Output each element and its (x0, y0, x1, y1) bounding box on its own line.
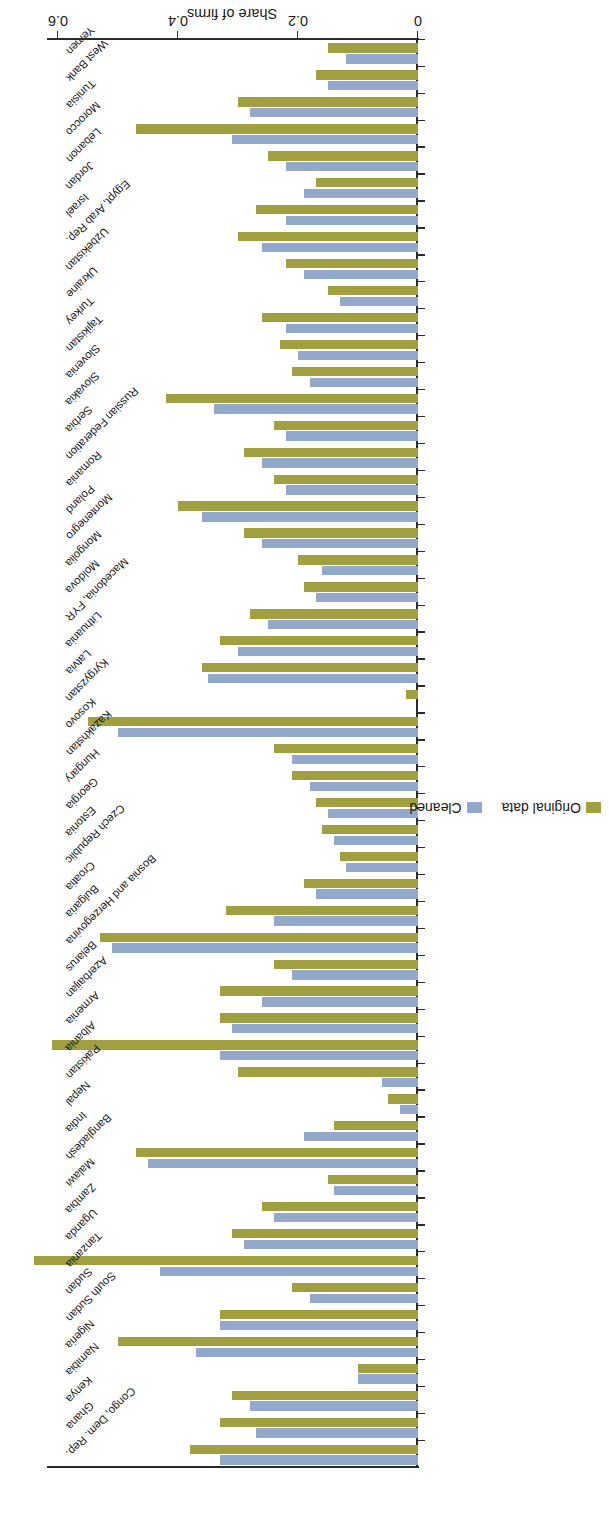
bar-original (406, 690, 418, 699)
bar-cleaned (250, 108, 418, 117)
category-tick (418, 578, 425, 579)
bar-cleaned (304, 270, 418, 279)
bar-cleaned (274, 1213, 418, 1222)
bar-original (388, 1094, 418, 1103)
bar-cleaned (298, 351, 418, 360)
bar-original (220, 1310, 418, 1319)
bar-cleaned (346, 863, 418, 872)
legend-item-cleaned: Cleaned (409, 800, 481, 816)
bar-cleaned (382, 1078, 418, 1087)
bar-original (304, 582, 418, 591)
category-tick (418, 1413, 425, 1414)
bar-cleaned (310, 378, 418, 387)
category-tick (418, 847, 425, 848)
bar-cleaned (334, 1186, 418, 1195)
bar-original (322, 825, 418, 834)
bar-cleaned (196, 1348, 418, 1357)
category-tick (418, 1386, 425, 1387)
bar-original (232, 1229, 418, 1238)
bar-original (274, 475, 418, 484)
category-tick (418, 739, 425, 740)
bar-original (166, 394, 418, 403)
value-axis-tick (57, 31, 58, 40)
bar-original (274, 960, 418, 969)
bar-original (220, 1418, 418, 1427)
bar-original (226, 906, 418, 915)
category-tick (418, 793, 425, 794)
bar-cleaned (232, 1024, 418, 1033)
bar-original (250, 609, 418, 618)
bar-original (328, 1175, 418, 1184)
bar-original (238, 97, 418, 106)
bar-cleaned (322, 566, 418, 575)
bar-cleaned (286, 324, 418, 333)
category-tick (418, 146, 425, 147)
bar-cleaned (208, 674, 418, 683)
bar-original (220, 986, 418, 995)
bar-original (262, 313, 418, 322)
bar-original (52, 1040, 418, 1049)
bar-cleaned (310, 1294, 418, 1303)
bar-original (292, 1283, 418, 1292)
bar-original (136, 124, 418, 133)
bar-chart-figure: Congo, Dem. Rep.GhanaKenyaNamibiaNigeria… (0, 0, 609, 1528)
legend-item-original: Original data (502, 800, 601, 816)
bar-cleaned (316, 889, 418, 898)
bar-cleaned (148, 1159, 418, 1168)
bar-original (178, 502, 418, 511)
category-tick (418, 605, 425, 606)
category-tick (418, 820, 425, 821)
bar-cleaned (274, 916, 418, 925)
bar-original (292, 771, 418, 780)
bar-original (334, 1121, 418, 1130)
bar-cleaned (112, 943, 418, 952)
category-tick (418, 39, 425, 40)
plot-area: Congo, Dem. Rep.GhanaKenyaNamibiaNigeria… (58, 40, 418, 1468)
bar-original (304, 879, 418, 888)
category-tick (418, 1278, 425, 1279)
category-label: Jordan (64, 160, 97, 193)
category-tick (418, 335, 425, 336)
bar-original (316, 178, 418, 187)
bar-cleaned (346, 54, 418, 63)
category-tick (418, 254, 425, 255)
category-tick (418, 928, 425, 929)
bar-original (316, 70, 418, 79)
bar-cleaned (160, 1267, 418, 1276)
category-tick (418, 901, 425, 902)
bar-cleaned (268, 620, 418, 629)
bar-cleaned (310, 782, 418, 791)
bar-original (292, 367, 418, 376)
category-tick (418, 1170, 425, 1171)
bar-original (244, 528, 418, 537)
category-tick (418, 1036, 425, 1037)
bar-original (34, 1256, 418, 1265)
category-tick (418, 389, 425, 390)
category-tick (418, 766, 425, 767)
category-tick (418, 982, 425, 983)
category-tick (418, 1063, 425, 1064)
bar-cleaned (292, 970, 418, 979)
bar-original (358, 1364, 418, 1373)
bar-cleaned (286, 216, 418, 225)
category-tick (418, 443, 425, 444)
bar-original (220, 1013, 418, 1022)
bar-cleaned (286, 485, 418, 494)
category-tick (418, 66, 425, 67)
bar-original (268, 151, 418, 160)
bar-original (328, 43, 418, 52)
bar-original (328, 286, 418, 295)
bar-cleaned (238, 647, 418, 656)
category-tick (418, 497, 425, 498)
bar-cleaned (244, 1240, 418, 1249)
category-tick (418, 200, 425, 201)
bar-original (190, 1445, 418, 1454)
bar-cleaned (304, 1132, 418, 1141)
bar-cleaned (262, 997, 418, 1006)
value-axis-tick (177, 31, 178, 40)
category-tick (418, 524, 425, 525)
legend-label-original: Original data (502, 800, 581, 816)
category-tick (418, 308, 425, 309)
bar-cleaned (286, 431, 418, 440)
bar-cleaned (328, 81, 418, 90)
